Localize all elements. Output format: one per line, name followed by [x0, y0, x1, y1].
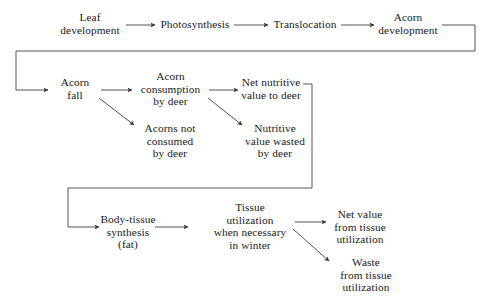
- node-acorns-not-consumed-by-deer: Acorns not consumed by deer: [136, 122, 204, 160]
- node-acorn-consumption-by-deer: Acorn consumption by deer: [131, 70, 210, 108]
- node-net-value-from-tissue-utilization: Net value from tissue utilization: [326, 208, 394, 246]
- node-nutritive-value-wasted-by-deer: Nutritive value wasted by deer: [240, 122, 310, 160]
- node-leaf-development: Leaf development: [54, 11, 126, 36]
- node-acorn-fall: Acorn fall: [48, 76, 102, 101]
- node-tissue-utilization: Tissue utilization when necessary in win…: [207, 201, 293, 251]
- flowchart-diagram: Leaf development Photosynthesis Transloc…: [0, 0, 491, 308]
- node-acorn-development: Acorn development: [372, 11, 444, 36]
- node-translocation: Translocation: [266, 18, 344, 31]
- node-waste-from-tissue-utilization: Waste from tissue utilization: [332, 256, 400, 294]
- arrow-acorn-fall-to-acorns-not-consumed: [99, 98, 134, 125]
- node-body-tissue-synthesis: Body-tissue synthesis (fat): [98, 213, 158, 251]
- arrow-consumption-to-nutritive-wasted: [208, 98, 242, 125]
- node-photosynthesis: Photosynthesis: [154, 18, 236, 31]
- node-net-nutritive-value-to-deer: Net nutritive value to deer: [238, 76, 304, 101]
- arrow-tissue-utilization-to-waste: [293, 229, 329, 261]
